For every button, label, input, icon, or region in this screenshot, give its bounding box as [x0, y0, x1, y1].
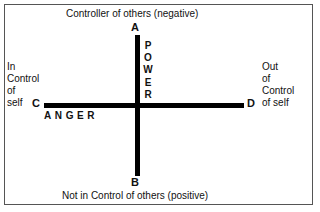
right-axis-label-line-2: of [262, 73, 294, 85]
right-axis-label-line-4: of self [262, 97, 294, 109]
left-axis-label-line-1: In [7, 61, 39, 73]
endpoint-label-d: D [247, 98, 255, 109]
diagram-canvas: Controller of others (negative) Not in C… [0, 0, 320, 212]
left-axis-label-line-2: Control [7, 73, 39, 85]
top-axis-label: Controller of others (negative) [66, 8, 198, 19]
bottom-axis-label: Not in Control of others (positive) [62, 190, 208, 201]
horizontal-axis-line [44, 103, 244, 108]
vertical-axis-letter-1: P [143, 40, 153, 52]
endpoint-label-b: B [131, 177, 139, 188]
endpoint-label-c: C [32, 98, 40, 109]
right-axis-label-line-1: Out [262, 61, 294, 73]
right-axis-label-line-3: Control [262, 85, 294, 97]
vertical-axis-letter-3: W [143, 64, 153, 76]
horizontal-axis-title: ANGER [44, 110, 98, 121]
vertical-axis-letter-4: E [143, 77, 153, 89]
left-axis-label-line-3: of [7, 85, 39, 97]
vertical-axis-title: P O W E R [143, 40, 153, 101]
right-axis-label: Out of Control of self [262, 61, 294, 109]
endpoint-label-a: A [131, 22, 139, 33]
vertical-axis-letter-5: R [143, 89, 153, 101]
vertical-axis-letter-2: O [143, 52, 153, 64]
